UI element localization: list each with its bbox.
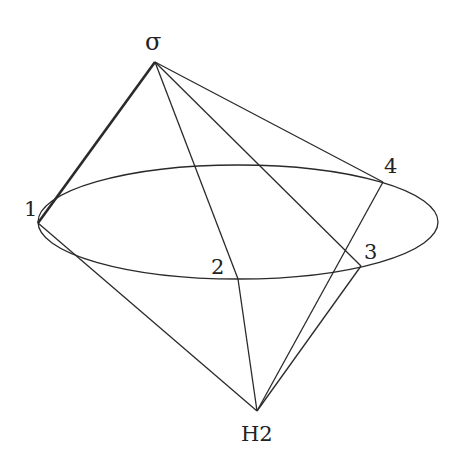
edge-sigma-1	[38, 62, 155, 223]
label-point-2: 2	[211, 257, 224, 278]
edge-h2-1	[38, 223, 257, 411]
label-point-4: 4	[384, 156, 397, 177]
edge-sigma-3	[155, 62, 361, 266]
cone-diagram	[0, 0, 462, 467]
edge-sigma-2	[155, 62, 238, 279]
edge-h2-4	[257, 182, 383, 411]
label-point-3: 3	[364, 242, 377, 263]
label-point-1: 1	[24, 199, 37, 220]
diagram-canvas: σ 1 2 3 4 H2	[0, 0, 462, 467]
edge-h2-2	[238, 279, 257, 411]
edge-sigma-4	[155, 62, 383, 182]
label-h2: H2	[241, 424, 273, 445]
label-sigma: σ	[145, 30, 161, 54]
edge-h2-3	[257, 266, 361, 411]
base-ellipse	[38, 165, 438, 279]
